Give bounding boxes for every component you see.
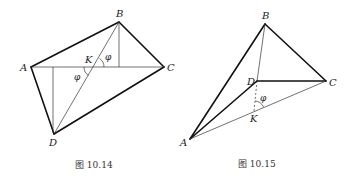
label-b: B — [261, 10, 269, 21]
edge-bd — [257, 24, 265, 81]
edge-cd — [54, 67, 164, 134]
diagram-canvas: A B C D K φ φ 图 10.14 A B C D K φ 图 10.1… — [0, 0, 351, 180]
edge-ad — [190, 81, 257, 139]
label-a: A — [19, 62, 27, 73]
label-c: C — [329, 77, 337, 88]
angle-label-phi-lower: φ — [74, 72, 81, 82]
angle-arc-upper — [100, 59, 105, 68]
edge-ac — [190, 81, 326, 139]
edge-bc — [119, 22, 164, 67]
label-c: C — [167, 62, 175, 73]
angle-label-phi-upper: φ — [105, 52, 112, 62]
label-d: D — [246, 76, 255, 87]
caption-figure-10-15: 图 10.15 — [238, 159, 276, 169]
label-k: K — [249, 113, 258, 124]
label-k: K — [84, 54, 93, 65]
label-a: A — [179, 137, 187, 148]
angle-arc-lower — [84, 67, 89, 76]
figure-10-14: A B C D K φ φ 图 10.14 — [19, 8, 175, 170]
angle-label-phi: φ — [260, 93, 267, 103]
label-d: D — [48, 137, 57, 148]
edge-da — [31, 67, 54, 134]
label-b: B — [115, 8, 123, 19]
caption-figure-10-14: 图 10.14 — [75, 160, 113, 170]
figure-10-15: A B C D K φ 图 10.15 — [179, 10, 337, 169]
edge-bc — [265, 24, 326, 81]
